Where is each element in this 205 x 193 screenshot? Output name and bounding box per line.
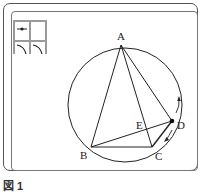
segment-AB <box>91 45 121 147</box>
segment-CD <box>152 121 172 147</box>
label-B: B <box>80 149 87 161</box>
arrow-up-icon <box>176 99 179 113</box>
circumcircle <box>68 48 182 162</box>
label-C: C <box>155 150 162 162</box>
label-A: A <box>117 30 125 42</box>
label-D: D <box>177 119 185 131</box>
arrow-up-head-icon <box>177 96 181 101</box>
arrow-down-head-icon <box>164 137 169 142</box>
segment-AD <box>121 45 172 121</box>
segment-BD <box>91 121 172 147</box>
label-E: E <box>136 119 143 131</box>
figure-caption: 図 1 <box>3 177 23 193</box>
segment-AC <box>121 45 152 147</box>
geometry-figure: A B C D E <box>0 0 205 193</box>
point-D-handle[interactable] <box>170 119 175 124</box>
